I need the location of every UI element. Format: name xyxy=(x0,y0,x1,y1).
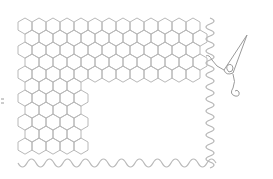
hexagon-cell xyxy=(116,66,130,82)
hexagon-cell xyxy=(102,66,116,82)
thread-icon xyxy=(231,74,239,96)
wavy-border-right xyxy=(206,18,214,168)
hexagon-cell xyxy=(172,66,186,82)
hexagon-cell xyxy=(46,138,60,154)
hexagon-cell xyxy=(130,66,144,82)
hexagon-cell xyxy=(18,138,32,154)
left-tick-mark xyxy=(1,99,4,103)
hexagon-cell xyxy=(158,66,172,82)
hexagon-cell xyxy=(88,66,102,82)
hexagon-cell xyxy=(32,138,46,154)
thread-tail-icon xyxy=(206,56,224,71)
hexagon-cell xyxy=(144,66,158,82)
wavy-border-bottom xyxy=(18,159,216,167)
hexagon-cell xyxy=(186,66,200,82)
hexagon-cell xyxy=(60,138,74,154)
hexagon-cell xyxy=(74,138,88,154)
quilt-illustration xyxy=(0,0,273,179)
needle-icon xyxy=(206,35,247,96)
hexagon-grid xyxy=(18,18,207,154)
